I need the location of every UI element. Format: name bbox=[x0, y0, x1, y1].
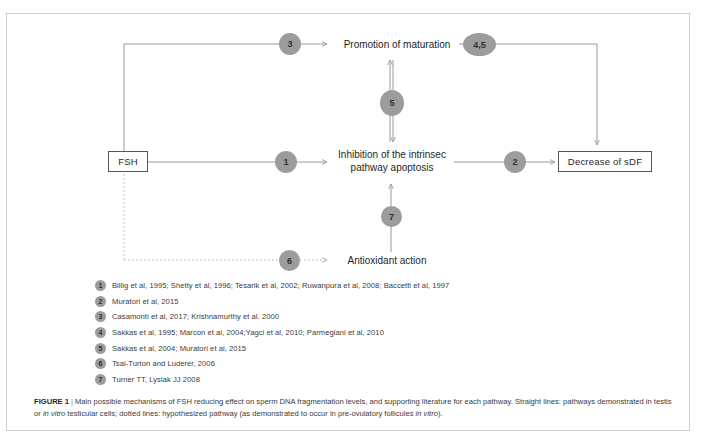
legend-badge-6: 6 bbox=[95, 358, 106, 369]
legend-badge-7: 7 bbox=[95, 374, 106, 385]
legend-badge-1: 1 bbox=[95, 280, 106, 291]
legend-text-6: Tsai-Turton and Luderer, 2006 bbox=[112, 359, 215, 368]
legend-text-5: Sakkas et al, 2004; Muratori et al, 2015 bbox=[112, 344, 246, 353]
legend-item: 5 Sakkas et al, 2004; Muratori et al, 20… bbox=[7, 340, 691, 356]
legend-badge-4: 4 bbox=[95, 327, 106, 338]
node-fsh-label: FSH bbox=[118, 156, 138, 167]
node-inhibition-line2: pathway apoptosis bbox=[351, 162, 434, 173]
legend-item: 1 Billig et al, 1995; Shetty et al, 1996… bbox=[7, 278, 691, 294]
badge-6: 6 bbox=[279, 250, 300, 271]
badge-5-label: 5 bbox=[389, 98, 394, 108]
legend-text-2: Muratori et al, 2015 bbox=[112, 297, 178, 306]
badge-7: 7 bbox=[381, 206, 402, 227]
caption-label: FIGURE 1 bbox=[34, 397, 69, 406]
legend-item: 7 Turner TT, Lysiak JJ 2008 bbox=[7, 372, 691, 388]
legend-item: 2 Muratori et al, 2015 bbox=[7, 294, 691, 310]
badge-2: 2 bbox=[504, 151, 526, 173]
badge-3: 3 bbox=[279, 33, 301, 55]
legend-badge-5: 5 bbox=[95, 343, 106, 354]
badge-4-5: 4,5 bbox=[463, 33, 496, 56]
diagram-connectors bbox=[7, 14, 691, 276]
pathway-diagram: FSH Promotion of maturation Inhibition o… bbox=[7, 14, 691, 276]
node-decrease-sdf: Decrease of sDF bbox=[558, 151, 652, 172]
node-antioxidant-label: Antioxidant action bbox=[348, 255, 427, 266]
badge-6-label: 6 bbox=[287, 256, 292, 266]
caption-text-part2: testicular cells; dotted lines: hypothes… bbox=[65, 409, 415, 418]
node-fsh: FSH bbox=[108, 151, 148, 172]
legend-text-3: Casamonti et al, 2017; Krishnamurthy et … bbox=[112, 312, 279, 321]
figure-frame: FSH Promotion of maturation Inhibition o… bbox=[6, 13, 690, 431]
node-inhibition-line1: Inhibition of the intrinsec bbox=[338, 149, 446, 160]
badge-1: 1 bbox=[275, 151, 297, 173]
legend-text-4: Sakkas et al, 1995; Marcon et al, 2004;Y… bbox=[112, 328, 384, 337]
caption-text-part3: ). bbox=[438, 409, 443, 418]
legend-text-1: Billig et al, 1995; Shetty et al, 1996; … bbox=[112, 281, 449, 290]
legend-item: 3 Casamonti et al, 2017; Krishnamurthy e… bbox=[7, 309, 691, 325]
node-decrease-sdf-label: Decrease of sDF bbox=[568, 156, 642, 167]
caption-italic-in-vitro-2: in vitro bbox=[416, 409, 438, 418]
caption-italic-in-vitro-1: in vitro bbox=[43, 409, 65, 418]
node-inhibition-apoptosis: Inhibition of the intrinsec pathway apop… bbox=[327, 148, 457, 174]
badge-1-label: 1 bbox=[283, 157, 288, 167]
legend-item: 4 Sakkas et al, 1995; Marcon et al, 2004… bbox=[7, 325, 691, 341]
badge-5: 5 bbox=[380, 90, 404, 116]
badge-2-label: 2 bbox=[512, 157, 517, 167]
legend-text-7: Turner TT, Lysiak JJ 2008 bbox=[112, 375, 200, 384]
legend-item: 6 Tsai-Turton and Luderer, 2006 bbox=[7, 356, 691, 372]
node-promotion-of-maturation: Promotion of maturation bbox=[332, 38, 462, 51]
node-antioxidant-action: Antioxidant action bbox=[332, 254, 442, 267]
badge-4-5-label: 4,5 bbox=[473, 40, 486, 50]
badge-7-label: 7 bbox=[389, 212, 394, 222]
node-promotion-label: Promotion of maturation bbox=[344, 39, 451, 50]
badge-3-label: 3 bbox=[287, 39, 292, 49]
figure-caption: FIGURE 1|Main possible mechanisms of FSH… bbox=[34, 396, 679, 421]
legend-badge-3: 3 bbox=[95, 311, 106, 322]
legend-badge-2: 2 bbox=[95, 296, 106, 307]
reference-legend: 1 Billig et al, 1995; Shetty et al, 1996… bbox=[7, 278, 691, 387]
